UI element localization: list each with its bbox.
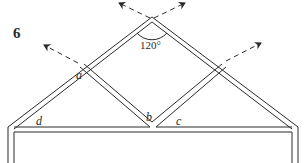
apex-angle-label: 120°	[140, 39, 161, 51]
dashed-arrow-right-brace	[226, 43, 261, 61]
wall-right	[292, 127, 298, 163]
angle-label-c: c	[176, 114, 182, 128]
angle-label-b: b	[146, 110, 152, 124]
tie-beam	[14, 127, 292, 132]
angle-label-a: a	[76, 68, 82, 82]
dashed-arrow-left-brace	[44, 45, 78, 63]
dashed-arrow-apex-left	[119, 3, 150, 18]
brace-right	[152, 64, 226, 127]
roof-truss-diagram: 6 120° a b c d	[0, 0, 305, 163]
figure-number: 6	[13, 25, 21, 41]
angle-label-d: d	[36, 114, 43, 128]
dashed-arrow-apex-right	[154, 3, 185, 18]
brace-left	[80, 64, 152, 127]
wall-left	[8, 127, 14, 163]
